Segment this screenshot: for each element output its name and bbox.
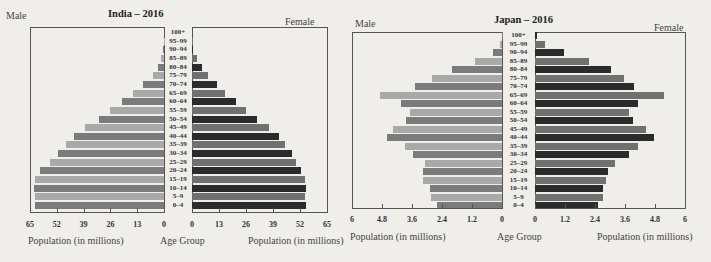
age-group-label: 5–9 — [502, 193, 535, 201]
age-group-label: 60–64 — [502, 99, 535, 107]
age-group-column: 100+95–9990–9485–8980–8475–7970–7465–696… — [502, 0, 535, 262]
female-bar — [535, 75, 624, 82]
male-tick-label: 3.6 — [407, 215, 417, 224]
age-group-label: 50–54 — [502, 116, 535, 124]
female-bar — [535, 160, 615, 167]
age-group-label: 35–39 — [502, 142, 535, 150]
age-group-label: 30–34 — [502, 150, 535, 158]
age-group-label: 80–84 — [502, 65, 535, 73]
male-bar — [401, 100, 502, 107]
male-bar — [475, 58, 503, 65]
female-bar — [535, 83, 634, 90]
female-bar — [535, 32, 537, 39]
male-bar — [405, 143, 503, 150]
male-bar — [380, 92, 503, 99]
female-x-axis-title: Population (in millions) — [597, 231, 693, 242]
male-label: Male — [355, 18, 376, 29]
female-bar — [535, 58, 589, 65]
male-bar — [393, 126, 502, 133]
female-bar — [535, 177, 606, 184]
female-axis-tick — [565, 204, 566, 209]
female-tick-label: 0 — [533, 215, 537, 224]
male-tick-label: 6 — [350, 215, 354, 224]
male-bar — [425, 160, 503, 167]
female-bar — [535, 168, 608, 175]
female-bar — [535, 134, 654, 141]
age-group-label: 75–79 — [502, 74, 535, 82]
age-group-label: 20–24 — [502, 167, 535, 175]
age-group-label: 95–99 — [502, 40, 535, 48]
male-bar — [431, 194, 502, 201]
male-x-axis — [352, 208, 503, 209]
age-group-label: 65–69 — [502, 91, 535, 99]
age-group-label: 10–14 — [502, 184, 535, 192]
female-bar — [535, 109, 629, 116]
female-bar — [535, 151, 629, 158]
female-bar — [535, 66, 611, 73]
female-bar — [535, 49, 564, 56]
male-x-axis-title: Population (in millions) — [350, 231, 446, 242]
male-axis-tick — [472, 204, 473, 209]
male-bar — [387, 134, 502, 141]
female-tick-label: 4.8 — [650, 215, 660, 224]
female-axis-tick — [535, 204, 536, 209]
male-bar — [430, 185, 503, 192]
male-bar — [410, 109, 503, 116]
male-bar — [413, 151, 502, 158]
female-bar — [535, 194, 603, 201]
female-bar — [535, 185, 603, 192]
male-tick-label: 4.8 — [377, 215, 387, 224]
female-x-axis — [535, 208, 686, 209]
female-bar — [535, 117, 633, 124]
age-group-label: 85–89 — [502, 57, 535, 65]
male-bar — [452, 66, 502, 73]
female-tick-label: 2.4 — [590, 215, 600, 224]
age-group-label: 15–19 — [502, 176, 535, 184]
age-group-label: 100+ — [502, 31, 535, 39]
age-group-label: 40–44 — [502, 133, 535, 141]
male-tick-label: 1.2 — [467, 215, 477, 224]
age-group-label: 55–59 — [502, 108, 535, 116]
male-bar — [502, 32, 503, 39]
male-bar — [432, 75, 502, 82]
japan-pyramid-chart: Japan – 2016MaleFemale100+95–9990–9485–8… — [0, 0, 711, 262]
male-bar — [423, 177, 502, 184]
age-group-label: 0–4 — [502, 201, 535, 209]
female-tick-label: 3.6 — [620, 215, 630, 224]
age-group-label: 45–49 — [502, 125, 535, 133]
female-axis-tick — [655, 204, 656, 209]
female-bar — [535, 92, 664, 99]
male-bar — [423, 168, 502, 175]
female-axis-tick — [685, 204, 686, 209]
male-axis-tick — [442, 204, 443, 209]
male-bar — [406, 117, 502, 124]
male-axis-tick — [352, 204, 353, 209]
female-bar — [535, 41, 545, 48]
male-bar — [500, 41, 503, 48]
female-bar — [535, 100, 638, 107]
age-group-label: 70–74 — [502, 82, 535, 90]
female-axis-tick — [625, 204, 626, 209]
female-bar — [535, 126, 646, 133]
male-tick-label: 2.4 — [437, 215, 447, 224]
age-group-label: 25–29 — [502, 159, 535, 167]
age-group-axis-title: Age Group — [497, 231, 542, 242]
female-tick-label: 1.2 — [560, 215, 570, 224]
female-tick-label: 6 — [683, 215, 687, 224]
male-bar — [493, 49, 502, 56]
male-tick-label: 0 — [500, 215, 504, 224]
age-group-label: 90–94 — [502, 48, 535, 56]
male-axis-tick — [382, 204, 383, 209]
male-bar — [415, 83, 503, 90]
female-bar — [535, 143, 638, 150]
female-axis-tick — [595, 204, 596, 209]
male-axis-tick — [502, 204, 503, 209]
male-axis-tick — [412, 204, 413, 209]
